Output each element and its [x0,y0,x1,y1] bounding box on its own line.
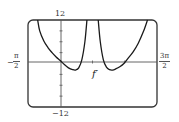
curve-label: f′ [92,68,98,79]
plot-area [0,0,179,122]
x-max-label: 3π 2 [159,53,170,70]
y-max-label: 12 [55,10,65,18]
axis-ticks [60,31,125,96]
curve-segment [38,20,87,70]
curve-segment [98,20,147,70]
x-min-label: π 2 [13,53,20,70]
y-min-label: −12 [52,110,69,118]
